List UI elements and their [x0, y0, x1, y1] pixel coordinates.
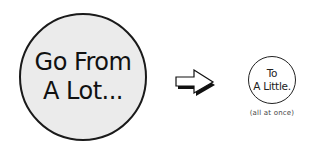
small-bubble-line-2: A Little.: [253, 80, 291, 93]
large-circle-bubble: Go From A Lot...: [19, 13, 147, 141]
caption-text: (all at once): [236, 109, 308, 117]
right-arrow-icon: [174, 69, 218, 97]
large-bubble-line-2: A Lot...: [43, 77, 123, 106]
small-circle-bubble: To A Little.: [248, 56, 296, 104]
large-bubble-line-1: Go From: [35, 48, 132, 77]
small-bubble-line-1: To: [267, 67, 277, 80]
